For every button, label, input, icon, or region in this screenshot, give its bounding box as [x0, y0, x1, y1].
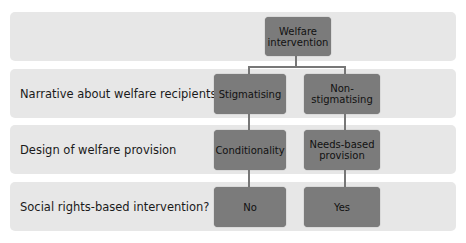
connector-conditionality-no	[248, 170, 250, 187]
node-text: Welfare	[279, 26, 317, 37]
row-band-root	[10, 12, 456, 61]
node-text: Needs-based	[309, 139, 374, 150]
node-stigmatising: Stigmatising	[214, 74, 286, 114]
connector-to-stigmatising	[248, 66, 250, 74]
node-text: stigmatising	[311, 94, 373, 105]
node-needs-based-provision: Needs-basedprovision	[304, 130, 380, 170]
node-conditionality: Conditionality	[214, 130, 286, 170]
node-text: Stigmatising	[219, 89, 282, 100]
connector-non-stigmatising-needs	[344, 114, 346, 130]
node-text: Non-	[330, 83, 354, 94]
node-text: intervention	[268, 37, 329, 48]
node-text: Conditionality	[215, 145, 284, 156]
node-no: No	[214, 187, 286, 227]
row-label-design: Design of welfare provision	[20, 125, 176, 174]
node-yes: Yes	[304, 187, 380, 227]
row-label-rights: Social rights-based intervention?	[20, 182, 209, 231]
row-label-narrative: Narrative about welfare recipients	[20, 69, 216, 118]
connector-needs-yes	[344, 170, 346, 187]
node-welfare-intervention: Welfareintervention	[265, 17, 331, 56]
connector-branch	[248, 66, 346, 68]
node-text: provision	[319, 150, 365, 161]
node-text: No	[243, 202, 257, 213]
connector-to-non-stigmatising	[344, 66, 346, 74]
node-text: Yes	[334, 202, 350, 213]
connector-stigmatising-conditionality	[248, 114, 250, 130]
node-non-stigmatising: Non-stigmatising	[304, 74, 380, 114]
clipped-caption	[0, 0, 466, 3]
